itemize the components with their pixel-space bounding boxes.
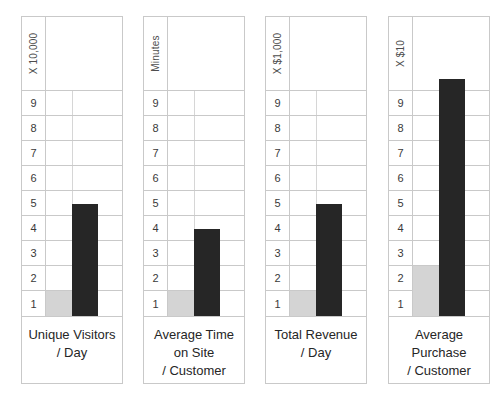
y-axis-tick-label: 3 bbox=[389, 241, 413, 265]
chart-caption-line: / Day bbox=[270, 344, 362, 362]
chart-caption-line: Unique Visitors bbox=[26, 326, 118, 344]
y-axis-tick-label: 1 bbox=[389, 291, 413, 316]
y-axis-tick-label: 6 bbox=[266, 166, 290, 190]
y-axis-tick-label: 8 bbox=[22, 116, 46, 140]
chart-caption: Total Revenue/ Day bbox=[266, 316, 366, 383]
chart-caption-line: / Day bbox=[26, 344, 118, 362]
y-axis-tick-label: 9 bbox=[22, 91, 46, 115]
chart-caption-line: on Site bbox=[148, 344, 240, 362]
bar-before bbox=[46, 291, 72, 316]
bar-before bbox=[290, 291, 316, 316]
y-axis-tick-label: 9 bbox=[144, 91, 168, 115]
bar-group bbox=[413, 17, 489, 316]
plot-area: X $1,000987654321 bbox=[266, 17, 366, 316]
y-axis-unit-label: X $1,000 bbox=[272, 33, 283, 75]
bar-group bbox=[290, 17, 366, 316]
plot-area: X 10,000987654321 bbox=[22, 17, 122, 316]
chart-caption: Unique Visitors/ Day bbox=[22, 316, 122, 383]
y-axis-tick-label: 4 bbox=[144, 216, 168, 240]
y-axis-tick-label: 8 bbox=[266, 116, 290, 140]
y-axis-tick-label: 5 bbox=[389, 191, 413, 215]
y-axis-tick-label: 8 bbox=[389, 116, 413, 140]
bar-group bbox=[46, 17, 122, 316]
y-axis-tick-label: 7 bbox=[144, 141, 168, 165]
y-axis-tick-label: 4 bbox=[266, 216, 290, 240]
y-axis-tick-label: 9 bbox=[266, 91, 290, 115]
plot-area: X $10987654321 bbox=[389, 17, 489, 316]
y-axis-unit-cell: X 10,000 bbox=[22, 17, 46, 91]
y-axis-tick-label: 6 bbox=[144, 166, 168, 190]
y-axis-tick-label: 3 bbox=[144, 241, 168, 265]
chart-panel: X 10,000987654321Unique Visitors/ Day bbox=[21, 16, 123, 384]
y-axis-tick-label: 9 bbox=[389, 91, 413, 115]
y-axis-tick-label: 8 bbox=[144, 116, 168, 140]
y-axis-tick-label: 2 bbox=[22, 266, 46, 290]
chart-panel: X $10987654321AveragePurchase/ Customer bbox=[388, 16, 490, 384]
y-axis-unit-cell: Minutes bbox=[144, 17, 168, 91]
y-axis-tick-label: 3 bbox=[22, 241, 46, 265]
chart-caption-line: Purchase bbox=[393, 344, 485, 362]
chart-caption-line: / Customer bbox=[393, 362, 485, 380]
bar-after bbox=[72, 204, 98, 317]
y-axis-tick-label: 5 bbox=[266, 191, 290, 215]
bar-before bbox=[168, 291, 194, 316]
y-axis-unit-cell: X $10 bbox=[389, 17, 413, 91]
chart-caption-line: Average Time bbox=[148, 326, 240, 344]
y-axis-tick-label: 2 bbox=[144, 266, 168, 290]
y-axis-tick-label: 5 bbox=[144, 191, 168, 215]
bar-after bbox=[439, 79, 465, 317]
y-axis-tick-label: 2 bbox=[389, 266, 413, 290]
chart-panel-row: X 10,000987654321Unique Visitors/ DayMin… bbox=[0, 0, 498, 401]
y-axis-tick-label: 7 bbox=[22, 141, 46, 165]
y-axis-tick-label: 4 bbox=[22, 216, 46, 240]
y-axis-unit-label: X $10 bbox=[395, 40, 406, 67]
chart-panel: Minutes987654321Average Timeon Site/ Cus… bbox=[143, 16, 245, 384]
plot-area: Minutes987654321 bbox=[144, 17, 244, 316]
y-axis-tick-label: 6 bbox=[22, 166, 46, 190]
y-axis-tick-label: 7 bbox=[266, 141, 290, 165]
y-axis-tick-label: 1 bbox=[22, 291, 46, 316]
chart-caption-line: Average bbox=[393, 326, 485, 344]
chart-caption: Average Timeon Site/ Customer bbox=[144, 316, 244, 383]
chart-caption-line: Total Revenue bbox=[270, 326, 362, 344]
bar-after bbox=[316, 204, 342, 317]
y-axis-unit-label: X 10,000 bbox=[28, 33, 39, 75]
y-axis-tick-label: 4 bbox=[389, 216, 413, 240]
y-axis-tick-label: 1 bbox=[144, 291, 168, 316]
y-axis-tick-label: 2 bbox=[266, 266, 290, 290]
y-axis-tick-label: 6 bbox=[389, 166, 413, 190]
chart-caption: AveragePurchase/ Customer bbox=[389, 316, 489, 383]
y-axis-unit-label: Minutes bbox=[150, 35, 161, 71]
chart-caption-line: / Customer bbox=[148, 362, 240, 380]
bar-before bbox=[413, 266, 439, 316]
y-axis-tick-label: 1 bbox=[266, 291, 290, 316]
y-axis-tick-label: 5 bbox=[22, 191, 46, 215]
y-axis-tick-label: 7 bbox=[389, 141, 413, 165]
chart-panel: X $1,000987654321Total Revenue/ Day bbox=[265, 16, 367, 384]
bar-after bbox=[194, 229, 220, 317]
y-axis-unit-cell: X $1,000 bbox=[266, 17, 290, 91]
y-axis-tick-label: 3 bbox=[266, 241, 290, 265]
bar-group bbox=[168, 17, 244, 316]
